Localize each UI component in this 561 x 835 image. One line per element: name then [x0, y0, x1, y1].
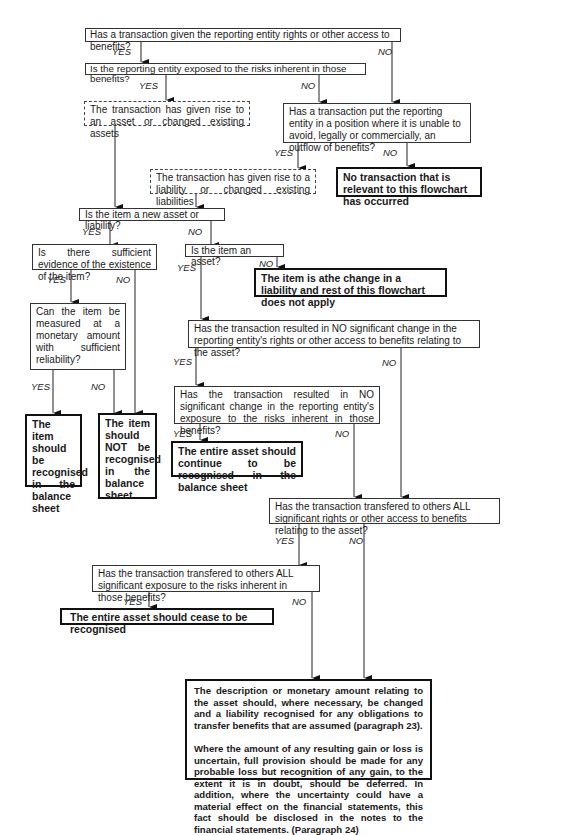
q-no-change-in-exposure: Has the transaction resulted in NO signi…: [174, 386, 380, 424]
no-relevant-transaction-outcome: No transaction that is relevant to this …: [336, 167, 482, 197]
no-label: NO: [349, 535, 363, 546]
q-sufficient-evidence: Is there sufficient evidence of the exis…: [32, 244, 157, 270]
q-is-asset: Is the item an asset?: [185, 244, 284, 257]
yes-label: YES: [173, 428, 192, 439]
liability-created-note: The transaction has given rise to a liab…: [150, 169, 316, 194]
no-label: NO: [378, 46, 392, 57]
yes-label: YES: [123, 596, 142, 607]
no-label: NO: [259, 258, 273, 269]
q-rights-access-benefits: Has a transaction given the reporting en…: [85, 28, 401, 42]
q-exposed-to-risks: Is the reporting entity exposed to the r…: [85, 63, 366, 75]
q-transferred-all-rights: Has the transaction transfered to others…: [269, 498, 500, 524]
cease-recognised-outcome: The entire asset should cease to be reco…: [60, 608, 274, 625]
no-label: NO: [116, 274, 130, 285]
yes-label: YES: [31, 381, 50, 392]
final-paragraph-23: The description or monetary amount relat…: [194, 685, 423, 731]
yes-label: YES: [173, 356, 192, 367]
no-label: NO: [383, 147, 397, 158]
no-label: NO: [382, 357, 396, 368]
no-label: NO: [335, 428, 349, 439]
not-recognised-outcome: The item should NOT be recognised in the…: [98, 413, 157, 499]
continue-recognised-outcome: The entire asset should continue to be r…: [171, 441, 303, 477]
recognised-outcome: The item should be recognised in the bal…: [25, 414, 82, 487]
liability-change-outcome: The item is athe change in a liability a…: [254, 268, 447, 297]
q-unavoidable-outflow: Has a transaction put the reporting enti…: [283, 103, 471, 143]
asset-created-note: The transaction has given rise to an ass…: [84, 101, 250, 126]
no-label: NO: [301, 80, 315, 91]
q-measurable-reliably: Can the item be measured at a monetary a…: [30, 303, 126, 370]
q-new-asset-or-liability: Is the item a new asset or liability?: [79, 208, 225, 221]
no-label: NO: [292, 596, 306, 607]
no-label: NO: [188, 226, 202, 237]
yes-label: YES: [82, 226, 101, 237]
final-adjustment-outcome: The description or monetary amount relat…: [185, 679, 432, 780]
yes-label: YES: [139, 80, 158, 91]
no-label: NO: [91, 381, 105, 392]
q-transferred-all-exposure: Has the transaction transfered to others…: [92, 565, 320, 592]
yes-label: YES: [275, 535, 294, 546]
final-paragraph-24: Where the amount of any resulting gain o…: [194, 743, 423, 835]
yes-label: YES: [177, 262, 196, 273]
yes-label: YES: [47, 274, 66, 285]
yes-label: YES: [112, 46, 131, 57]
yes-label: YES: [274, 147, 293, 158]
q-no-change-in-rights: Has the transaction resulted in NO signi…: [188, 320, 480, 348]
